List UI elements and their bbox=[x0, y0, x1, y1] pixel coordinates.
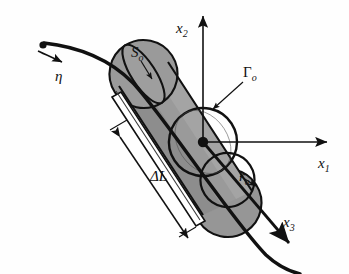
cross-section-leader-line bbox=[213, 82, 243, 109]
x1-axis-label: x1 bbox=[317, 155, 330, 174]
length-dimension-label: ΔL bbox=[149, 168, 167, 184]
curve-start-point bbox=[39, 41, 46, 48]
x2-axis-label: x2 bbox=[175, 20, 188, 39]
figure-root: x2 x1 x3 So Γo η ΔL ro bbox=[0, 0, 349, 274]
eta-arrow bbox=[38, 51, 62, 62]
cross-section-label: Γo bbox=[243, 64, 257, 83]
dimension-tick-start bbox=[110, 120, 127, 130]
curve-parameter-label: η bbox=[55, 68, 62, 84]
x3-axis-label: x3 bbox=[282, 214, 295, 233]
cylinder-group bbox=[96, 27, 274, 250]
technical-diagram: x2 x1 x3 So Γo η ΔL ro bbox=[0, 0, 349, 274]
eta-arrow-group bbox=[38, 51, 62, 62]
origin-point bbox=[198, 137, 208, 147]
